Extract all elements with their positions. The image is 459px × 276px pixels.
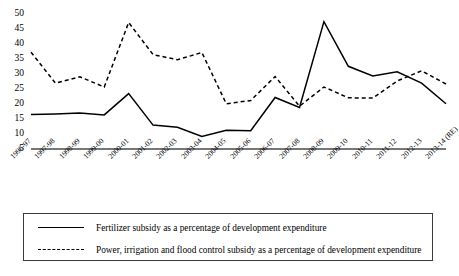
y-axis-tick-40: 40 xyxy=(2,38,24,48)
series-line-fertilizer xyxy=(31,22,446,137)
legend-label-fertilizer: Fertilizer subsidy as a percentage of de… xyxy=(96,223,327,234)
legend-item-fertilizer: Fertilizer subsidy as a percentage of de… xyxy=(24,217,432,239)
y-axis-tick-35: 35 xyxy=(2,53,24,63)
legend-item-power-irrigation: Power, irrigation and flood control subs… xyxy=(24,239,432,261)
legend-line-solid-icon xyxy=(38,222,84,234)
series-line-power-irrigation xyxy=(31,23,446,107)
y-axis-tick-10: 10 xyxy=(2,128,24,138)
y-axis-tick-20: 20 xyxy=(2,98,24,108)
legend-label-power-irrigation: Power, irrigation and flood control subs… xyxy=(96,245,421,256)
y-axis-tick-50: 50 xyxy=(2,8,24,18)
series-group xyxy=(31,22,446,137)
y-axis-tick-15: 15 xyxy=(2,113,24,123)
plot-area: 5101520253035404550 xyxy=(0,0,456,160)
plot-canvas xyxy=(0,0,456,160)
legend-line-dashed-icon xyxy=(38,244,84,256)
chart-legend: Fertilizer subsidy as a percentage of de… xyxy=(23,213,433,261)
y-axis-tick-5: 5 xyxy=(2,143,24,153)
y-axis-tick-45: 45 xyxy=(2,23,24,33)
y-axis-tick-25: 25 xyxy=(2,83,24,93)
y-axis-tick-30: 30 xyxy=(2,68,24,78)
